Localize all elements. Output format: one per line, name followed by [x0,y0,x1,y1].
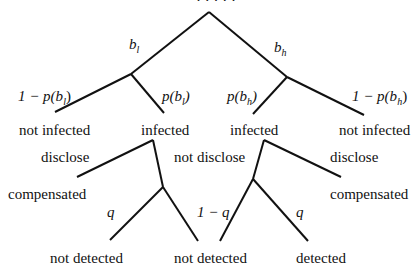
state-not-infected-right: not infected [339,122,410,138]
outcome-compensated-left: compensated [8,186,86,202]
outcome-compensated-right: compensated [330,186,408,202]
label-prob-not-infected-low: 1 − p(bl) [18,88,71,110]
edge-bl-infected [131,74,164,113]
leaf-detected: detected [296,250,346,266]
edge-bh-infected [253,77,287,114]
label-prob-not-infected-high: 1 − p(bh) [352,88,407,110]
label-one-minus-q: 1 − q [197,204,230,220]
label-prob-infected-low: p(bl) [162,88,190,110]
label-prob-infected-high: p(bh) [227,88,257,110]
state-infected-right: infected [230,122,278,138]
state-infected-left: infected [141,122,189,138]
edge-left-q [110,187,163,240]
label-b-low: bl [129,36,139,58]
leaf-not-detected-left: not detected [50,250,123,266]
label-q-left: q [107,204,115,220]
decision-disclose-left: disclose [41,149,89,165]
label-b-high: bh [274,39,287,61]
decision-disclose-right: disclose [330,149,378,165]
edge-right-not-disclose [253,140,264,179]
decision-not-disclose: not disclose [174,149,245,165]
leaf-not-detected-middle: not detected [174,250,247,266]
edge-left-1mq [163,187,198,241]
edge-left-not-disclose [153,140,163,187]
edge-root-bl [131,12,209,74]
state-not-infected-left: not infected [19,122,90,138]
label-q-right: q [296,204,304,220]
